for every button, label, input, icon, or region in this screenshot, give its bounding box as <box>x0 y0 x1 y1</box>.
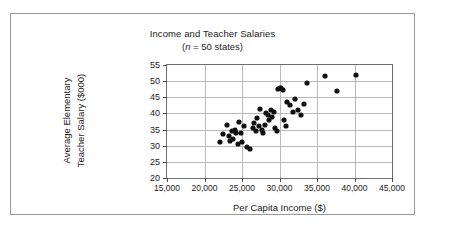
scatter-point <box>237 120 241 124</box>
x-tick-mark <box>280 178 281 182</box>
x-tick-label: 45,000 <box>379 183 405 193</box>
x-tick-label: 30,000 <box>267 183 293 193</box>
scatter-point <box>302 102 306 106</box>
y-axis-title-line2: Teacher Salary ($000) <box>75 64 86 177</box>
plot-area: 202530354045505515,00020,00025,00030,000… <box>166 64 393 179</box>
scatter-point <box>234 131 238 135</box>
scatter-point <box>323 74 327 78</box>
scatter-point <box>335 89 339 93</box>
scatter-point <box>242 124 246 128</box>
scatter-point <box>299 113 303 117</box>
y-tick-mark <box>163 97 167 98</box>
scatter-point <box>272 110 276 114</box>
chart-title: Income and Teacher Salaries <box>11 28 414 39</box>
x-tick-mark <box>242 178 243 182</box>
y-tick-label: 35 <box>150 125 160 135</box>
scatter-point <box>282 118 286 122</box>
scatter-point <box>266 113 270 117</box>
scatter-point <box>255 116 259 120</box>
y-tick-label: 55 <box>150 60 160 70</box>
y-tick-mark <box>163 65 167 66</box>
chart-subtitle: (n = 50 states) <box>11 41 414 52</box>
x-tick-mark <box>355 178 356 182</box>
y-tick-label: 20 <box>150 173 160 183</box>
x-tick-label: 20,000 <box>192 183 218 193</box>
x-tick-label: 15,000 <box>154 183 180 193</box>
x-tick-mark <box>205 178 206 182</box>
x-tick-label: 25,000 <box>229 183 255 193</box>
scatter-point <box>296 108 300 112</box>
scatter-point <box>354 73 358 77</box>
y-tick-label: 50 <box>150 76 160 86</box>
y-tick-mark <box>163 113 167 114</box>
scatter-point <box>240 140 244 144</box>
subtitle-count-text: = 50 states) <box>190 41 243 52</box>
scatter-point <box>236 142 240 146</box>
x-axis-title: Per Capita Income ($) <box>166 202 393 213</box>
scatter-point <box>284 124 288 128</box>
x-tick-label: 35,000 <box>304 183 330 193</box>
gridline-vertical <box>242 65 243 178</box>
scatter-point <box>221 132 225 136</box>
scatter-point <box>270 115 274 119</box>
y-tick-label: 25 <box>150 157 160 167</box>
scatter-point <box>275 129 279 133</box>
gridline-vertical <box>205 65 206 178</box>
scatter-point <box>231 137 235 141</box>
scatter-point <box>227 134 231 138</box>
x-tick-mark <box>167 178 168 182</box>
gridline-vertical <box>280 65 281 178</box>
scatter-point <box>291 110 295 114</box>
scatter-point <box>305 81 309 85</box>
scatter-point <box>239 131 243 135</box>
y-tick-label: 30 <box>150 141 160 151</box>
scatter-point <box>261 131 265 135</box>
figure-frame: Income and Teacher Salaries (n = 50 stat… <box>10 13 415 215</box>
scatter-point <box>252 121 256 125</box>
scatter-point <box>288 103 292 107</box>
x-tick-mark <box>317 178 318 182</box>
y-axis-title-line1: Average Elementary <box>61 64 72 177</box>
x-tick-label: 40,000 <box>342 183 368 193</box>
scatter-point <box>263 123 267 127</box>
scatter-point <box>225 123 229 127</box>
y-tick-mark <box>163 130 167 131</box>
y-tick-label: 45 <box>150 92 160 102</box>
scatter-point <box>248 147 252 151</box>
scatter-point <box>254 129 258 133</box>
y-tick-mark <box>163 81 167 82</box>
gridline-vertical <box>317 65 318 178</box>
gridline-vertical <box>355 65 356 178</box>
scatter-point <box>258 107 262 111</box>
scatter-point <box>218 140 222 144</box>
scatter-point <box>293 97 297 101</box>
y-tick-label: 40 <box>150 108 160 118</box>
scatter-point <box>281 88 285 92</box>
y-tick-mark <box>163 162 167 163</box>
y-tick-mark <box>163 146 167 147</box>
x-tick-mark <box>392 178 393 182</box>
